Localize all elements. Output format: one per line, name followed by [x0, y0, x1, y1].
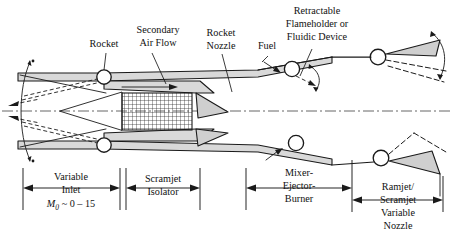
callout-retractable-line3: Fluidic Device	[287, 31, 348, 42]
flameholder-arc-arrowhead-bottom	[313, 87, 319, 92]
nozzle-hinge-lower	[373, 150, 389, 166]
svg-text:M0 ~ 0 – 15: M0 ~ 0 – 15	[46, 198, 95, 212]
station-scramjet-isolator-line1: Scramjet	[145, 173, 181, 184]
upper-nozzle-arc-arrowhead-bottom	[437, 74, 443, 80]
inlet-shock-arrow-upper	[8, 101, 19, 106]
rocket-hinge-lower	[97, 138, 111, 152]
station-ramjet-nozzle-line4: Nozzle	[384, 220, 413, 231]
lower-outer-cowl	[18, 141, 332, 165]
station-mixer-ejector-burner-line3: Burner	[285, 193, 314, 204]
flameholder-hinge-upper	[284, 61, 299, 76]
leader-fuel	[262, 56, 268, 62]
station-variable-inlet-mach: M0 ~ 0 – 15	[46, 198, 95, 212]
lower-body-to-hinge	[332, 162, 374, 165]
flameholder-hinge-lower	[288, 135, 303, 150]
station-mixer-ejector-burner-line2: Ejector-	[283, 180, 316, 191]
isolator-grid	[122, 93, 192, 130]
callout-secondary-air-flow-line2: Air Flow	[139, 37, 177, 48]
station-variable-inlet-line2: Inlet	[62, 184, 81, 195]
lower-nozzle-flap	[389, 151, 440, 174]
flameholder-rotation-arc	[310, 66, 319, 90]
lower-ramp-alt-b	[22, 122, 110, 142]
mach-value: ~ 0 – 15	[62, 198, 96, 209]
flameholder-arrow-a	[308, 80, 316, 86]
lower-nozzle-alt-position-a	[389, 133, 414, 154]
cowl-arc-arrowhead-bottom	[28, 156, 32, 162]
rocket-nozzle-upper	[196, 93, 228, 118]
station-mixer-ejector-burner-line1: Mixer-	[285, 167, 314, 178]
cowl-lip-pivot-lower	[32, 160, 35, 163]
scramjet-isolator-duct	[122, 93, 192, 130]
lower-cowl-assembly	[18, 129, 332, 165]
station-ramjet-nozzle-line3: Variable	[381, 207, 415, 218]
station-ramjet-nozzle-line1: Ramjet/	[382, 181, 414, 192]
callout-rocket-nozzle-line1: Rocket	[207, 27, 236, 38]
callout-rocket-nozzle-line2: Nozzle	[207, 40, 236, 51]
upper-nozzle-alt-position-a	[386, 60, 446, 71]
callout-rocket: Rocket	[90, 38, 119, 49]
callout-retractable-line1: Retractable	[294, 5, 341, 16]
rbcc-engine-diagram: Rocket Secondary Air Flow Rocket Nozzle …	[0, 0, 452, 242]
rocket-hinge-upper	[97, 70, 111, 84]
upper-ramp-alt-b	[22, 80, 110, 100]
callout-retractable-line2: Flameholder or	[286, 18, 349, 29]
upper-variable-nozzle	[332, 31, 446, 82]
inlet-shock-arrow-lower	[8, 116, 19, 121]
nozzle-hinge-upper	[370, 49, 386, 65]
leader-rocket	[104, 53, 106, 70]
mach-symbol: M	[46, 198, 56, 209]
callout-secondary-air-flow-line1: Secondary	[137, 24, 181, 35]
cowl-arc-arrowhead-top	[28, 60, 32, 66]
upper-nozzle-flap	[386, 40, 440, 56]
rocket-nozzles	[196, 93, 228, 146]
station-scramjet-isolator-line2: Isolator	[147, 186, 179, 197]
cowl-lip-pivot-upper	[32, 60, 35, 63]
lower-nozzle-alt-position-b	[414, 133, 446, 152]
station-variable-inlet-line1: Variable	[54, 171, 88, 182]
callout-fuel: Fuel	[258, 40, 276, 51]
station-ramjet-nozzle-line2: Scramjet	[380, 194, 416, 205]
upper-nozzle-alt-position-b	[388, 66, 444, 82]
